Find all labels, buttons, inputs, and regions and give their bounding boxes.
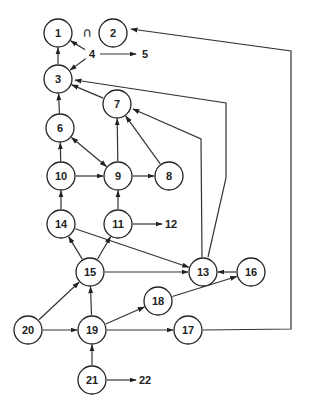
node-label: 10 xyxy=(55,170,67,182)
node-9: 9 xyxy=(104,162,132,190)
node-10: 10 xyxy=(47,162,75,190)
node-label: 2 xyxy=(110,27,116,39)
edge-13-to-3 xyxy=(75,80,226,257)
node-15: 15 xyxy=(76,258,104,286)
node-6: 6 xyxy=(46,114,74,142)
node-17: 17 xyxy=(174,316,202,344)
node-label: 13 xyxy=(197,266,209,278)
node-label: 16 xyxy=(245,266,257,278)
node-label: 17 xyxy=(182,324,194,336)
intersection-symbol: ∩ xyxy=(82,25,92,40)
node-label: 18 xyxy=(152,295,164,307)
node-label: 1 xyxy=(55,27,61,39)
node-label: 3 xyxy=(55,73,61,85)
node-label: 6 xyxy=(57,122,63,134)
edge-7-to-3 xyxy=(72,85,103,98)
nodes: 12345678910111213141516171819202122 xyxy=(14,19,265,394)
node-16: 16 xyxy=(237,258,265,286)
edge-19-to-15 xyxy=(91,287,92,315)
edge-15-to-11 xyxy=(98,237,111,259)
node-label: 14 xyxy=(55,218,68,230)
node-22: 22 xyxy=(139,374,151,386)
node-19: 19 xyxy=(78,316,106,344)
node-20: 20 xyxy=(14,316,42,344)
node-8: 8 xyxy=(155,162,183,190)
edge-6-to-9 xyxy=(72,138,107,167)
dependency-graph: 12345678910111213141516171819202122 ∩ xyxy=(0,0,310,405)
intersection-symbol-text: ∩ xyxy=(82,25,92,40)
edge-20-to-15 xyxy=(39,282,79,320)
node-label: 11 xyxy=(112,218,124,230)
node-1: 1 xyxy=(44,19,72,47)
node-7: 7 xyxy=(103,90,131,118)
node-14: 14 xyxy=(47,210,75,238)
node-label: 7 xyxy=(114,98,120,110)
node-label: 8 xyxy=(166,170,172,182)
edge-6-to-3 xyxy=(59,94,60,113)
node-18: 18 xyxy=(144,287,172,315)
node-21: 21 xyxy=(78,366,106,394)
edges xyxy=(39,29,291,380)
edge-19-to-18 xyxy=(106,307,145,324)
node-label: 20 xyxy=(22,324,34,336)
node-label: 4 xyxy=(89,48,96,60)
node-label: 19 xyxy=(86,324,98,336)
node-13: 13 xyxy=(189,258,217,286)
node-11: 11 xyxy=(104,210,132,238)
edge-4-to-3 xyxy=(70,59,85,70)
node-3: 3 xyxy=(44,65,72,93)
node-label: 12 xyxy=(165,218,177,230)
node-label: 15 xyxy=(84,266,96,278)
node-5: 5 xyxy=(142,48,148,60)
node-label: 21 xyxy=(86,374,98,386)
node-label: 5 xyxy=(142,48,148,60)
node-4: 4 xyxy=(89,48,96,60)
edge-4-to-1 xyxy=(71,41,85,50)
node-label: 22 xyxy=(139,374,151,386)
node-12: 12 xyxy=(165,218,177,230)
edge-8-to-7 xyxy=(126,116,160,164)
edge-9-to-7 xyxy=(117,119,118,161)
node-2: 2 xyxy=(99,19,127,47)
node-label: 9 xyxy=(115,170,121,182)
edge-15-to-14 xyxy=(69,237,82,259)
